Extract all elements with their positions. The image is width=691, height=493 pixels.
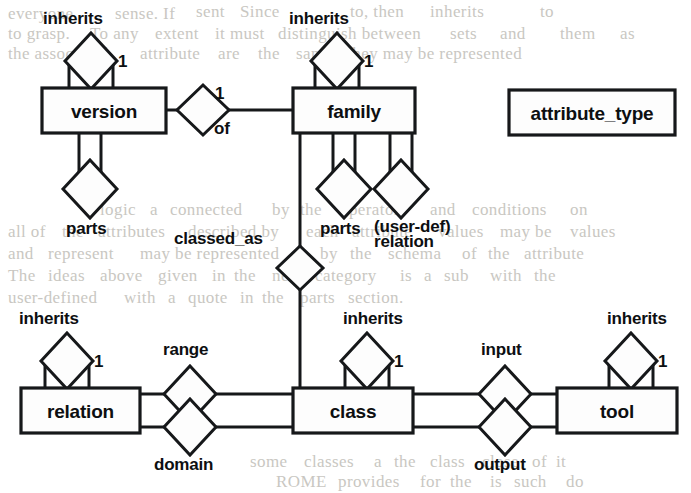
entity-label-family: family <box>293 101 415 123</box>
relationship-label-output: output <box>474 455 526 475</box>
relationship-relation-domain-class <box>140 399 293 455</box>
relationship-label-family-parts: parts <box>320 219 361 239</box>
cardinality-class-inherits: 1 <box>394 352 403 372</box>
relationship-tool-inherits <box>605 333 657 389</box>
relationship-label-domain: domain <box>154 455 213 475</box>
cardinality-family-inherits: 1 <box>364 52 373 72</box>
entity-label-version: version <box>42 101 166 123</box>
entity-label-attribute-type: attribute_type <box>509 103 675 125</box>
relationship-relation-range-class <box>140 366 293 422</box>
cardinality-version-inherits: 1 <box>118 52 127 72</box>
relationship-family-parts <box>317 133 371 218</box>
relationship-label-family-inherits: inherits <box>289 9 349 29</box>
entity-label-class: class <box>293 401 413 423</box>
relationship-family-inherits <box>311 33 363 89</box>
entity-label-tool: tool <box>557 401 677 423</box>
relationship-label-version-inherits: inherits <box>43 9 103 29</box>
relationship-class-input-tool <box>413 366 557 422</box>
relationship-family-classed-as-class <box>277 133 323 388</box>
relationship-version-inherits <box>65 33 117 89</box>
relationship-label-input: input <box>481 340 522 360</box>
cardinality-relation-inherits: 1 <box>94 352 103 372</box>
relationship-label-class-inherits: inherits <box>343 309 403 329</box>
diagram-canvas: everyonesense. IfsentSinceto, theninheri… <box>0 0 691 493</box>
relationship-relation-inherits <box>41 333 93 389</box>
relationship-class-output-tool <box>413 399 557 455</box>
relationship-label-version-of-family: of <box>214 119 230 139</box>
cardinality-tool-inherits: 1 <box>658 352 667 372</box>
relationship-label-family-classed-as: classed_as <box>174 229 263 249</box>
relationship-label-version-parts: parts <box>66 219 107 239</box>
relationship-version-parts <box>63 133 117 218</box>
relationship-label-family-userdef-relation: (user-def) relation <box>374 219 450 249</box>
entity-label-relation: relation <box>21 401 140 423</box>
relationship-label-relation-inherits: inherits <box>19 309 79 329</box>
relationship-family-userdef-relation <box>374 133 428 218</box>
relationship-class-inherits <box>341 333 393 389</box>
userdef-line-2: relation <box>374 232 434 251</box>
relationship-label-tool-inherits: inherits <box>607 309 667 329</box>
cardinality-version-of-family: 1 <box>215 84 224 104</box>
relationship-label-range: range <box>163 340 208 360</box>
